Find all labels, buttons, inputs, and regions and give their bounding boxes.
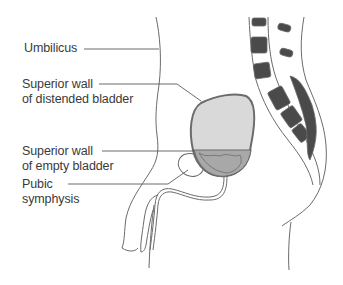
anatomy-diagram: Umbilicus Superior wall of distended bla… — [0, 0, 343, 285]
urethra-inner — [153, 176, 227, 250]
label-superior-wall-empty: Superior wall of empty bladder — [22, 144, 114, 174]
label-superior-wall-empty-line2: of empty bladder — [22, 159, 114, 174]
buttock-crease — [289, 222, 291, 270]
label-superior-wall-distended: Superior wall of distended bladder — [22, 77, 133, 107]
urethra-outer — [150, 176, 224, 250]
label-umbilicus-text: Umbilicus — [24, 41, 77, 55]
anterior-body-outline — [122, 17, 160, 251]
label-superior-wall-empty-line1: Superior wall — [22, 144, 114, 159]
label-pubic-symphysis-line2: symphysis — [22, 192, 79, 207]
label-superior-wall-distended-line1: Superior wall — [22, 77, 133, 92]
spinous-processes — [277, 23, 293, 58]
label-umbilicus: Umbilicus — [24, 41, 77, 56]
label-superior-wall-distended-line2: of distended bladder — [22, 92, 133, 107]
label-pubic-symphysis: Pubic symphysis — [22, 177, 79, 207]
label-pubic-symphysis-line1: Pubic — [22, 177, 79, 192]
